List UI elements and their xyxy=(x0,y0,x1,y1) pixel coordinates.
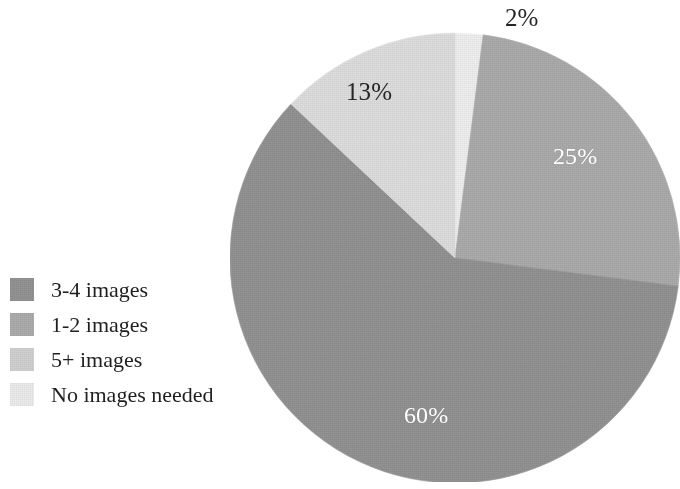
pie-chart-graphic xyxy=(230,30,680,482)
legend-item-3-4-images: 3-4 images xyxy=(10,272,225,307)
slice-data-label-1-2-images: 25% xyxy=(553,143,597,170)
slice-data-label-no-images-needed: 2% xyxy=(505,4,539,32)
slice-data-label-3-4-images: 60% xyxy=(404,402,448,429)
legend-swatch-icon-3-4-images xyxy=(10,278,34,301)
legend-item-5-plus-images: 5+ images xyxy=(10,342,225,377)
legend-item-1-2-images: 1-2 images xyxy=(10,307,225,342)
legend-label-1-2-images: 1-2 images xyxy=(51,314,148,336)
legend-label-no-images-needed: No images needed xyxy=(51,384,214,406)
chart-legend: 3-4 images 1-2 images 5+ images No image… xyxy=(10,272,225,412)
legend-swatch-icon-no-images-needed xyxy=(10,383,34,406)
legend-item-no-images-needed: No images needed xyxy=(10,377,225,412)
slice-data-label-5-plus-images: 13% xyxy=(346,78,392,106)
pie-slices-svg xyxy=(230,30,680,482)
legend-swatch-icon-1-2-images xyxy=(10,313,34,336)
legend-label-5-plus-images: 5+ images xyxy=(51,349,142,371)
legend-swatch-icon-5-plus-images xyxy=(10,348,34,371)
legend-label-3-4-images: 3-4 images xyxy=(51,279,148,301)
